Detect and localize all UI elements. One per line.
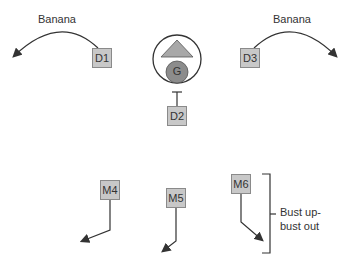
box-m4: M4	[100, 180, 120, 200]
bracket-label-line1: Bust up-	[280, 206, 321, 218]
left-arc-label: Banana	[38, 13, 76, 25]
m6-arrow	[241, 193, 262, 240]
left-arc-arrow	[14, 32, 98, 56]
box-d1: D1	[92, 48, 112, 68]
g-label: G	[167, 65, 187, 77]
box-m6: M6	[231, 174, 251, 194]
right-arc-label: Banana	[273, 13, 311, 25]
right-arc-arrow	[254, 32, 336, 56]
m4-arrow	[82, 200, 110, 241]
m5-arrow	[163, 208, 176, 251]
box-d3: D3	[240, 48, 260, 68]
box-m5: M5	[166, 188, 186, 208]
box-d2: D2	[167, 106, 187, 126]
bracket-label-line2: bust out	[280, 220, 319, 232]
bracket	[262, 174, 270, 253]
